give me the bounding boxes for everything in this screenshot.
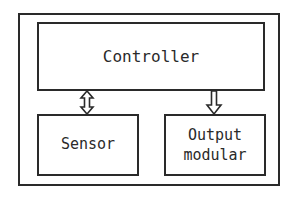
- down-arrow-icon: [207, 91, 221, 114]
- connector-arrows: [0, 0, 295, 198]
- bidirectional-arrow-icon: [81, 91, 93, 114]
